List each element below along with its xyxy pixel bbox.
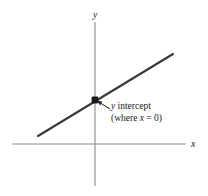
- annotation-equals-zero: = 0): [144, 113, 162, 123]
- x-axis-label: x: [191, 139, 195, 149]
- y-axis-label: y: [93, 10, 97, 20]
- figure-canvas: [0, 0, 208, 196]
- annotation-line-2: (where x = 0): [111, 113, 162, 125]
- annotation-intercept-text: intercept: [115, 101, 151, 111]
- y-intercept-figure: y x y intercept (where x = 0): [0, 0, 208, 196]
- y-intercept-annotation: y intercept (where x = 0): [111, 101, 162, 124]
- annotation-line-1: y intercept: [111, 101, 162, 113]
- annotation-where-prefix: (where: [111, 113, 140, 123]
- y-intercept-point-marker: [92, 97, 99, 104]
